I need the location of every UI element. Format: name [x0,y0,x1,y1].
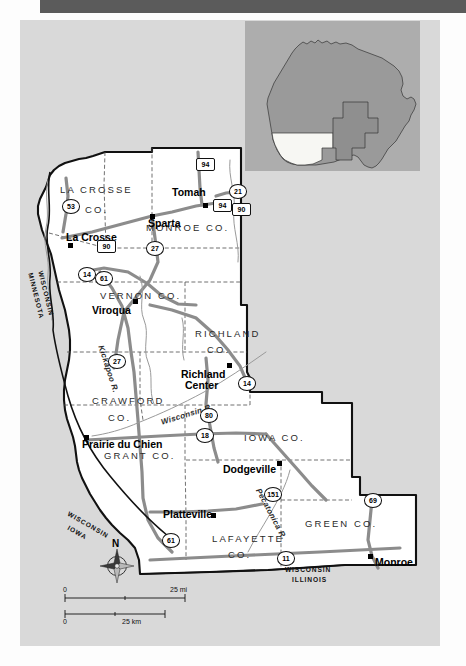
city-label-dodgeville: Dodgeville [223,463,276,475]
route-shield-27-south[interactable]: 27 [108,354,126,369]
route-shield-90b[interactable]: 90 [232,203,251,216]
county-label-lafayette-co: CO. [228,549,251,560]
city-label-center: Center [185,379,218,391]
city-label-tomah: Tomah [172,186,206,198]
route-number-80: 80 [205,412,213,419]
county-label-grant: GRANT CO. [104,450,176,461]
county-label-lafayette: LAFAYETTE [212,533,284,544]
route-shield-14-east[interactable]: 14 [238,376,256,391]
city-marker-dodgeville [277,461,282,466]
city-marker-monroe [368,554,373,559]
city-marker-richland-center [227,363,232,368]
city-marker-tomah [203,203,208,208]
route-number-61s: 61 [167,537,175,544]
county-label-la-crosse-co: CO. [85,204,108,215]
route-shield-94[interactable]: 94 [196,158,215,171]
route-shield-151[interactable]: 151 [264,487,282,502]
county-label-crawford-co: CO. [108,412,131,423]
county-label-green: GREEN CO. [305,518,377,529]
route-number-90: 90 [103,243,111,250]
city-label-platteville: Platteville [163,508,212,520]
route-shield-61-south[interactable]: 61 [162,533,180,548]
scale-km-start: 0 [63,618,67,625]
city-label-sparta: Sparta [148,217,181,229]
state-label-wisconsin-il: WISCONSIN [285,566,331,573]
map-page: LA CROSSE CO. MONROE CO. VERNON CO. RICH… [0,0,466,666]
route-number-14: 14 [83,271,91,278]
compass-north-label: N [112,538,119,549]
route-shield-11[interactable]: 11 [277,551,295,566]
scale-miles-start: 0 [63,586,67,593]
city-marker-la-crosse [68,243,73,248]
county-label-la-crosse: LA CROSSE [60,184,133,195]
route-number-94b: 94 [219,202,227,209]
route-shield-61[interactable]: 61 [95,271,113,286]
route-shield-14[interactable]: 14 [78,267,96,282]
route-shield-21[interactable]: 21 [229,184,247,199]
route-shield-90[interactable]: 90 [97,240,116,253]
route-number-18: 18 [201,432,209,439]
route-number-61: 61 [100,275,108,282]
city-label-prairie-du-chien: Prairie du Chien [82,438,163,450]
route-number-21: 21 [234,188,242,195]
route-shield-53[interactable]: 53 [62,199,80,214]
route-shield-69[interactable]: 69 [364,493,382,508]
route-number-94: 94 [202,161,210,168]
county-label-crawford: CRAWFORD [92,395,164,406]
scale-miles-end: 25 mi [170,586,187,593]
scale-km-end: 25 km [122,618,141,625]
county-label-vernon: VERNON CO. [100,290,181,301]
route-number-27n: 27 [151,245,159,252]
county-label-richland-co: CO. [207,344,230,355]
county-label-richland: RICHLAND [195,328,260,339]
route-shield-94b[interactable]: 94 [213,199,232,212]
route-shield-27-north[interactable]: 27 [146,241,164,256]
route-number-27s: 27 [113,358,121,365]
city-label-monroe: Monroe [375,556,413,568]
route-shield-18[interactable]: 18 [196,428,214,443]
route-number-53: 53 [67,203,75,210]
city-label-viroqua: Viroqua [92,304,131,316]
route-number-151: 151 [267,491,279,498]
state-label-illinois: ILLINOIS [292,576,327,583]
county-label-iowa: IOWA CO. [244,432,305,443]
route-number-90b: 90 [238,206,246,213]
route-number-11: 11 [282,555,289,562]
top-header-bar [40,0,466,13]
inset-panel-background [245,21,420,171]
route-number-69: 69 [369,497,377,504]
route-shield-80[interactable]: 80 [200,408,218,423]
route-number-14e: 14 [243,380,251,387]
city-marker-viroqua [133,299,138,304]
